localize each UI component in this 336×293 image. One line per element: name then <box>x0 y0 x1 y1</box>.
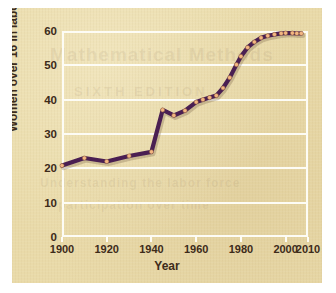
y-tick-label-40: 40 <box>44 94 57 106</box>
y-tick-label-50: 50 <box>44 59 57 71</box>
data-point-marker <box>183 109 187 113</box>
data-series-line <box>62 31 308 237</box>
data-point-marker <box>82 156 86 160</box>
data-point-marker <box>234 63 238 67</box>
y-tick-label-10: 10 <box>44 197 57 209</box>
x-tick-mark-1960 <box>195 237 197 242</box>
data-point-marker <box>127 154 131 158</box>
data-point-marker <box>299 31 303 35</box>
data-point-marker <box>228 76 232 80</box>
data-point-marker <box>279 31 283 35</box>
y-tick-label-0: 0 <box>51 231 57 243</box>
data-point-marker <box>214 93 218 97</box>
y-tick-label-20: 20 <box>44 162 57 174</box>
data-point-marker <box>172 113 176 117</box>
data-point-marker <box>284 31 288 35</box>
data-point-marker <box>290 31 294 35</box>
x-tick-mark-2010 <box>307 237 309 242</box>
data-point-marker <box>208 96 212 100</box>
data-point-marker <box>201 98 205 102</box>
chart-figure: Mathematical Methods SIXTH EDITION Under… <box>12 8 322 283</box>
data-point-marker <box>60 163 64 167</box>
x-tick-label-1920: 1920 <box>94 243 118 255</box>
x-tick-label-1960: 1960 <box>184 243 208 255</box>
x-tick-label-1980: 1980 <box>229 243 253 255</box>
x-axis-label: Year <box>12 259 322 273</box>
x-tick-mark-2000 <box>285 237 287 242</box>
data-point-marker <box>252 40 256 44</box>
data-point-marker <box>259 36 263 40</box>
x-tick-label-1900: 1900 <box>50 243 74 255</box>
x-tick-mark-1980 <box>240 237 242 242</box>
data-point-marker <box>194 100 198 104</box>
data-point-marker <box>105 159 109 163</box>
data-point-marker <box>272 32 276 36</box>
plot-area: 0102030405060 19001920194019601980200020… <box>62 31 308 237</box>
y-tick-label-30: 30 <box>44 128 57 140</box>
data-point-marker <box>239 54 243 58</box>
x-tick-mark-1940 <box>150 237 152 242</box>
data-point-marker <box>149 150 153 154</box>
series-line-shadow <box>64 35 303 168</box>
x-tick-label-2000: 2000 <box>273 243 297 255</box>
data-point-marker <box>246 45 250 49</box>
data-point-marker <box>161 108 165 112</box>
data-point-marker <box>221 86 225 90</box>
x-tick-label-1940: 1940 <box>139 243 163 255</box>
x-tick-mark-1900 <box>61 237 63 242</box>
y-axis-label: Women over 16 in labor force (%) <box>12 8 20 132</box>
series-line <box>62 33 301 166</box>
y-tick-label-60: 60 <box>44 25 57 37</box>
x-tick-mark-1920 <box>106 237 108 242</box>
x-tick-label-2010: 2010 <box>296 243 320 255</box>
data-point-marker <box>266 34 270 38</box>
data-point-marker <box>295 31 299 35</box>
